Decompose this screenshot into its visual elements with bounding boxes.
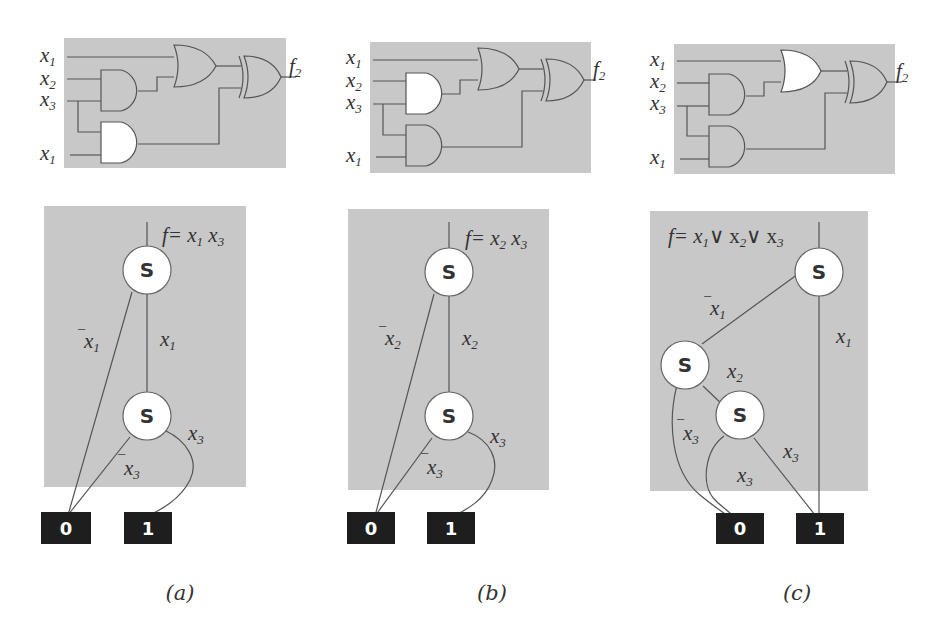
svg-text:0: 0 xyxy=(60,518,73,539)
svg-text:x1: x1 xyxy=(649,145,666,171)
and-gate-upper xyxy=(709,74,745,115)
svg-text:S: S xyxy=(442,260,456,284)
svg-text:S: S xyxy=(733,403,747,427)
svg-text:x1: x1 xyxy=(39,141,56,167)
svg-text:S: S xyxy=(678,353,692,377)
svg-text:S: S xyxy=(812,260,826,284)
graph-b: S S f= x2 x3 ¯x2 x2 x3 ¯x3 0 1 xyxy=(347,209,549,544)
graph-a: S S f= x1 x3 ¯x1 x1 x3 ¯x3 0 1 xyxy=(41,206,246,544)
svg-text:f2: f2 xyxy=(289,54,302,80)
svg-text:1: 1 xyxy=(814,518,827,539)
formula-b: f= x2 x3 xyxy=(465,226,528,252)
svg-text:S: S xyxy=(140,258,154,282)
circuit-c: x1 x2 x3 x1 f2 xyxy=(649,44,909,174)
and-gate-upper xyxy=(101,70,137,111)
graph-c: S S S f= x1∨ x2∨ x3 ¯x1 x1 x2 ¯x3 x3 x3 … xyxy=(650,211,868,544)
svg-text:f2: f2 xyxy=(593,57,606,83)
circuit-a: x1 x2 x3 x1 f2 xyxy=(39,38,302,168)
and-gate-lower xyxy=(406,125,442,166)
and-gate-upper-highlighted xyxy=(406,73,442,114)
svg-text:0: 0 xyxy=(734,518,747,539)
svg-text:0: 0 xyxy=(365,518,378,539)
caption-c: (c) xyxy=(783,581,811,605)
and-gate-lower-highlighted xyxy=(101,122,137,163)
circuit-b: x1 x2 x3 x1 f2 xyxy=(345,42,606,173)
svg-text:x1: x1 xyxy=(345,143,362,169)
svg-text:S: S xyxy=(442,404,456,428)
formula-a: f= x1 x3 xyxy=(162,223,225,249)
svg-text:1: 1 xyxy=(445,518,458,539)
caption-a: (a) xyxy=(166,581,195,605)
figure-canvas: x1 x2 x3 x1 f2 x1 x2 x3 x1 f2 xyxy=(0,0,929,643)
svg-text:S: S xyxy=(140,404,154,428)
svg-text:f2: f2 xyxy=(896,59,909,85)
caption-b: (b) xyxy=(477,581,507,605)
formula-c: f= x1∨ x2∨ x3 xyxy=(668,224,784,250)
svg-text:1: 1 xyxy=(142,518,155,539)
and-gate-lower xyxy=(709,126,745,167)
